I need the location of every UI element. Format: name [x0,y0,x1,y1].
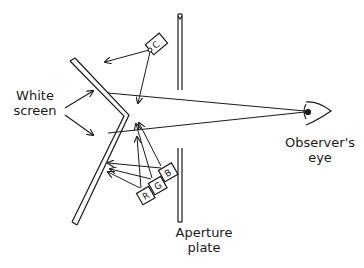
aperture-plate-label: Aperture plate [168,225,240,255]
observer-label-line2: eye [280,150,360,165]
projector-c: C [105,33,168,103]
white-screen-label-line2: screen [6,103,64,118]
white-screen [70,58,129,225]
screen-pointer-arrows [65,91,93,135]
sight-lines [108,93,305,133]
observer-eye-icon [304,102,331,125]
observer-label-line1: Observer's [280,135,360,150]
projector-r: R [108,137,155,205]
diagram-canvas: C B G [0,0,364,268]
observer-eye-label: Observer's eye [280,135,360,165]
aperture-label-line2: plate [168,240,240,255]
aperture-plate [178,14,182,222]
white-screen-label: White screen [6,88,64,118]
white-screen-label-line1: White [6,88,64,103]
aperture-label-line1: Aperture [168,225,240,240]
